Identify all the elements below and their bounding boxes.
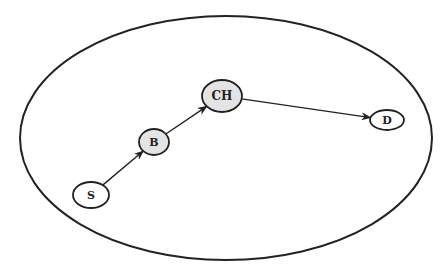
edge-s-to-b <box>103 151 144 185</box>
node-d: D <box>370 110 404 130</box>
node-b: B <box>139 129 169 155</box>
node-label: B <box>149 136 158 149</box>
edge-b-to-ch <box>166 106 207 134</box>
node-label: CH <box>212 89 233 103</box>
node-s: S <box>73 182 109 208</box>
node-label: D <box>382 114 392 127</box>
node-label: S <box>87 189 95 202</box>
cluster-boundary <box>20 16 432 260</box>
node-ch: CH <box>202 80 242 112</box>
edge-ch-to-d <box>242 99 371 118</box>
diagram-canvas: SBCHD <box>0 0 445 278</box>
